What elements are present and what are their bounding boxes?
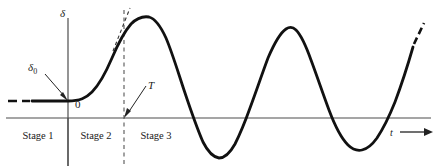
curve-trailing-dash <box>414 23 424 44</box>
t-axis-arrow-head <box>424 128 433 136</box>
figure-container: δ δ0 0 T t Stage 1 Stage 2 Stage 3 <box>0 0 437 166</box>
delta-curve <box>32 17 413 158</box>
t-arrow-shaft <box>128 86 146 113</box>
plot-canvas <box>0 0 437 166</box>
